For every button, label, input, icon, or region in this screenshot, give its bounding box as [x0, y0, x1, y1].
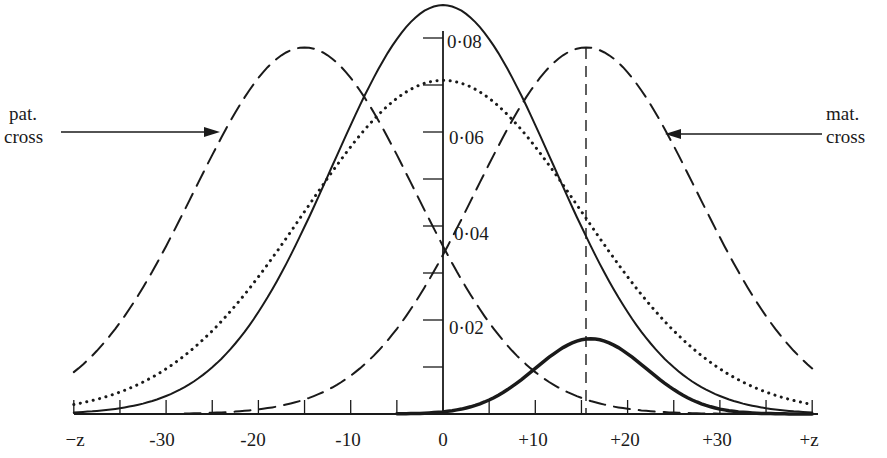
x-tick-label-minus-30: -30 [149, 429, 174, 450]
curve-solid-4 [397, 339, 812, 414]
x-tick-label-plus-10: +10 [518, 429, 548, 450]
y-tick-label-0-06: 0·06 [449, 127, 484, 148]
x-tick-label-minus-20: -20 [240, 429, 265, 450]
mat-cross-arrowhead-icon [665, 129, 681, 139]
x-tick-label-minus-10: -10 [335, 429, 360, 450]
x-tick-label-0: 0 [438, 429, 448, 450]
x-tick-label-plus-30: +30 [702, 429, 732, 450]
mat-cross-label-line1: mat. [826, 103, 859, 124]
y-tick-label-0-02: 0·02 [449, 317, 484, 338]
mat-cross-label-line2: cross [826, 126, 865, 147]
x-tick-label-plus-20: +20 [610, 429, 640, 450]
x-tick-label-plus-z: +z [799, 429, 818, 450]
y-axis-ticks [423, 38, 443, 367]
y-tick-label-0-08: 0·08 [447, 31, 482, 52]
curve-dashed-3 [185, 47, 813, 413]
distribution-chart: 0·08 0·06 0·04 0·02 −z -30 -20 -10 0 +10… [0, 0, 887, 458]
pat-cross-arrowhead-icon [204, 127, 220, 137]
pat-cross-label-line1: pat. [9, 103, 37, 124]
x-tick-label-minus-z: −z [65, 429, 84, 450]
curve-dashed-2 [74, 47, 739, 413]
y-tick-label-0-04: 0·04 [454, 223, 489, 244]
pat-cross-label-line2: cross [4, 126, 43, 147]
